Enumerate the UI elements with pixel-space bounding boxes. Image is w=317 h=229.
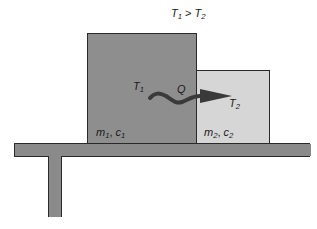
condition-operator: >: [185, 7, 191, 19]
m1-symbol: m: [96, 126, 105, 138]
m1-c1-separator: ,: [109, 126, 112, 138]
m2-c2-separator: ,: [217, 126, 220, 138]
block-1-properties: m1, c1: [96, 126, 125, 140]
condition-rhs-sub: 2: [201, 12, 205, 21]
table-leg: [49, 156, 62, 217]
t2-sub: 2: [236, 102, 240, 111]
c2-sub: 2: [229, 131, 233, 140]
block-1-temperature: T1: [133, 80, 144, 94]
heat-label: Q: [177, 83, 186, 95]
diagram-canvas: [0, 0, 317, 229]
temperature-condition: T1 > T2: [171, 7, 206, 21]
condition-lhs-sub: 1: [178, 12, 182, 21]
t2-symbol: T: [229, 97, 236, 109]
q-symbol: Q: [177, 83, 186, 95]
c1-sub: 1: [121, 131, 125, 140]
t1-sub: 1: [140, 85, 144, 94]
t1-symbol: T: [133, 80, 140, 92]
m2-symbol: m: [204, 126, 213, 138]
condition-lhs: T: [171, 7, 178, 19]
block-2-temperature: T2: [229, 97, 240, 111]
block-2-properties: m2, c2: [204, 126, 233, 140]
